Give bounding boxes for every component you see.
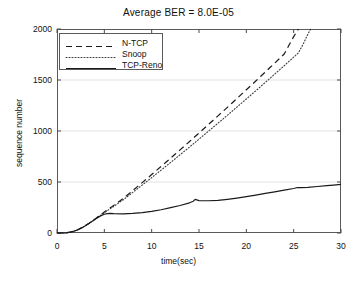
x-tick-label: 25: [279, 241, 309, 251]
y-tick-label: 1500: [18, 75, 52, 85]
legend-item-tcp-reno[interactable]: TCP-Reno: [60, 60, 164, 71]
x-tick-label: 30: [326, 241, 356, 251]
legend-swatch-dashed: [65, 38, 117, 49]
chart-title: Average BER = 8.0E-05: [0, 7, 357, 18]
x-tick-label: 20: [231, 241, 261, 251]
legend-label: TCP-Reno: [122, 60, 162, 71]
y-tick-label: 500: [18, 177, 52, 187]
legend-item-snoop[interactable]: Snoop: [60, 49, 164, 60]
y-tick-label: 0: [18, 228, 52, 238]
legend-swatch-dotted: [65, 49, 117, 60]
x-tick-label: 15: [184, 241, 214, 251]
x-tick-label: 0: [42, 241, 72, 251]
legend-item-n-tcp[interactable]: N-TCP: [60, 38, 164, 49]
legend-label: Snoop: [122, 49, 147, 60]
y-tick-label: 2000: [18, 24, 52, 34]
chart-legend: N-TCPSnoopTCP-Reno: [59, 33, 163, 70]
legend-swatch-solid: [65, 60, 117, 71]
legend-label: N-TCP: [122, 38, 148, 49]
x-axis-title: time(sec): [0, 256, 357, 266]
chart-figure: Average BER = 8.0E-05 sequence number 05…: [0, 0, 357, 283]
y-tick-label: 1000: [18, 126, 52, 136]
x-tick-label: 10: [137, 241, 167, 251]
x-tick-label: 5: [89, 241, 119, 251]
